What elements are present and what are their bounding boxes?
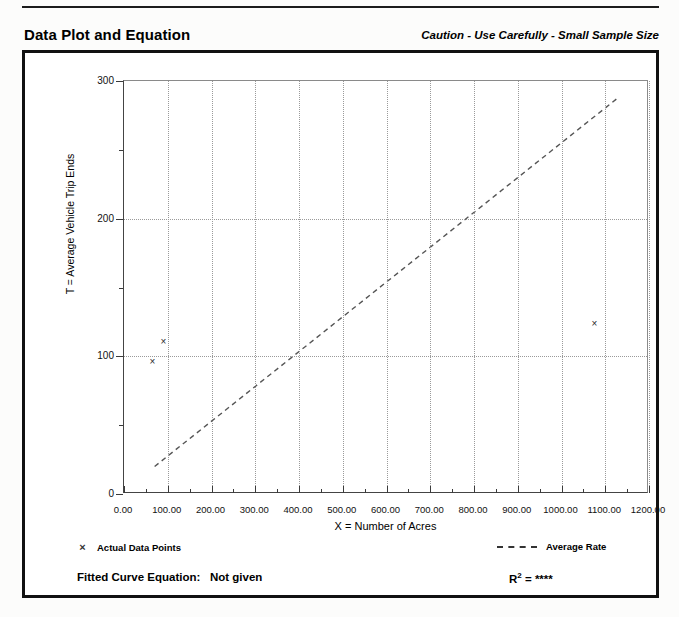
header: Data Plot and Equation Caution - Use Car… [22, 26, 659, 48]
y-axis-tick [116, 81, 123, 82]
y-axis-title: T = Average Vehicle Trip Ends [64, 124, 76, 324]
x-axis-tick [474, 486, 475, 493]
x-axis-tick [299, 486, 300, 493]
x-axis-minor-tick [365, 489, 366, 493]
y-axis-tick-label: 300 [83, 75, 114, 86]
x-axis-tick-label: 500.00 [327, 504, 356, 515]
x-axis-tick-label: 900.00 [502, 504, 531, 515]
x-axis-tick [255, 486, 256, 493]
x-axis-tick-label: 200.00 [196, 504, 225, 515]
y-axis-tick [116, 356, 123, 357]
gridline-vertical [649, 81, 650, 492]
x-axis-minor-tick [321, 489, 322, 493]
x-axis-tick-label: 1200.00 [631, 504, 665, 515]
x-axis-tick-label: 100.00 [152, 504, 181, 515]
x-axis-tick [343, 486, 344, 493]
x-axis-tick-label: 0.00 [114, 504, 133, 515]
gridline-vertical [168, 81, 169, 492]
y-axis-tick [116, 494, 123, 495]
gridline-vertical [299, 81, 300, 492]
x-axis-tick-label: 1000.00 [543, 504, 577, 515]
x-axis-tick-label: 400.00 [283, 504, 312, 515]
chart-legend: × Actual Data Points Average Rate [25, 541, 662, 561]
x-axis-minor-tick [540, 489, 541, 493]
x-axis-tick [430, 486, 431, 493]
x-axis-minor-tick [190, 489, 191, 493]
legend-item-average-rate: Average Rate [497, 541, 606, 552]
dashed-line-icon [497, 546, 537, 548]
x-axis-minor-tick [277, 489, 278, 493]
x-axis-tick [168, 486, 169, 493]
y-axis-tick-label: 0 [83, 488, 114, 499]
gridline-horizontal [124, 356, 647, 357]
fitted-curve-value: Not given [210, 571, 262, 583]
x-axis-tick-label: 300.00 [240, 504, 269, 515]
x-axis-minor-tick [408, 489, 409, 493]
gridline-vertical [605, 81, 606, 492]
gridline-vertical [255, 81, 256, 492]
gridline-vertical [474, 81, 475, 492]
y-axis-tick-label: 200 [83, 212, 114, 223]
fitted-curve-equation: Fitted Curve Equation: Not given [77, 571, 262, 583]
x-axis-tick [212, 486, 213, 493]
r-squared: R2 = **** [509, 571, 553, 585]
x-axis-minor-tick [583, 489, 584, 493]
top-divider-rule [22, 6, 659, 8]
chart-footer: Fitted Curve Equation: Not given R2 = **… [25, 571, 662, 595]
x-axis-minor-tick [627, 489, 628, 493]
r-squared-equals: = [525, 573, 532, 585]
y-axis-minor-tick [119, 425, 123, 426]
data-point-marker [590, 319, 599, 328]
y-axis-tick [116, 219, 123, 220]
x-axis-tick-label: 600.00 [371, 504, 400, 515]
y-axis-tick-label: 100 [83, 350, 114, 361]
x-axis-minor-tick [452, 489, 453, 493]
gridline-vertical [343, 81, 344, 492]
gridline-vertical [212, 81, 213, 492]
caution-note: Caution - Use Carefully - Small Sample S… [421, 29, 659, 41]
x-axis-minor-tick [233, 489, 234, 493]
legend-item-actual-data-points: × Actual Data Points [77, 541, 181, 553]
x-axis-title: X = Number of Acres [123, 520, 648, 532]
x-axis-minor-tick [146, 489, 147, 493]
fitted-curve-label: Fitted Curve Equation: [77, 571, 200, 583]
plot-frame [123, 80, 648, 493]
plot-area: T = Average Vehicle Trip Ends X = Number… [25, 53, 662, 601]
y-axis-minor-tick [119, 150, 123, 151]
data-point-marker [148, 357, 157, 366]
gridline-vertical [387, 81, 388, 492]
gridline-vertical [518, 81, 519, 492]
y-axis-minor-tick [119, 288, 123, 289]
x-axis-tick-label: 800.00 [458, 504, 487, 515]
r-squared-exponent: 2 [517, 571, 521, 580]
r-squared-value: **** [535, 573, 553, 585]
gridline-horizontal [124, 219, 647, 220]
x-axis-tick [124, 486, 125, 493]
page-title: Data Plot and Equation [24, 26, 190, 43]
gridline-vertical [430, 81, 431, 492]
x-axis-tick [605, 486, 606, 493]
x-marker-icon: × [77, 541, 88, 553]
x-axis-tick [562, 486, 563, 493]
legend-label-average-rate: Average Rate [546, 541, 606, 552]
legend-label-actual-data-points: Actual Data Points [97, 542, 181, 553]
x-axis-minor-tick [496, 489, 497, 493]
chart-panel: T = Average Vehicle Trip Ends X = Number… [22, 50, 659, 598]
x-axis-tick [649, 486, 650, 493]
data-point-marker [159, 337, 168, 346]
x-axis-tick-label: 1100.00 [587, 504, 621, 515]
x-axis-tick [387, 486, 388, 493]
x-axis-tick-label: 700.00 [415, 504, 444, 515]
x-axis-tick [518, 486, 519, 493]
gridline-vertical [562, 81, 563, 492]
